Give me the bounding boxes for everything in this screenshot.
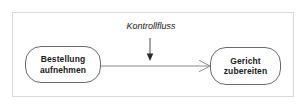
annotation-kontrollfluss-label: Kontrollfluss [106,21,196,31]
diagram-canvas: Kontrollfluss Bestellung aufnehmen Geric… [0,0,306,110]
node-gericht-line1: Gericht [230,56,260,66]
node-bestellung[interactable]: Bestellung aufnehmen [25,46,101,83]
node-bestellung-line2: aufnehmen [40,65,86,75]
node-gericht-line2: zubereiten [224,66,268,76]
node-bestellung-line1: Bestellung [41,54,85,64]
node-gericht[interactable]: Gericht zubereiten [210,47,281,85]
